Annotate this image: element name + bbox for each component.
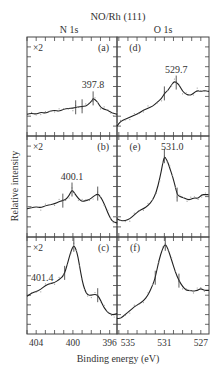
spectrum-curve-a xyxy=(27,99,117,114)
panel-label-b: (b) xyxy=(97,141,109,153)
x-tick-label: 400 xyxy=(66,338,81,348)
data-point xyxy=(77,107,78,108)
data-point xyxy=(54,284,55,285)
data-point xyxy=(167,90,168,91)
data-point xyxy=(129,313,130,314)
data-point xyxy=(200,90,201,91)
data-point xyxy=(113,222,114,223)
panel-label-f: (f) xyxy=(130,242,140,254)
data-point xyxy=(147,203,148,204)
peak-label-e: 531.0 xyxy=(161,141,184,152)
data-point xyxy=(194,196,195,197)
data-point xyxy=(175,187,176,188)
data-point xyxy=(79,265,80,266)
data-point xyxy=(36,114,37,115)
data-point xyxy=(152,199,153,200)
spectrum-curve-f xyxy=(117,245,209,319)
peak-label-a: 397.8 xyxy=(82,79,105,90)
data-point xyxy=(36,292,37,293)
data-point xyxy=(182,288,183,289)
data-point xyxy=(120,219,121,220)
multiplier-label: ×2 xyxy=(33,142,43,152)
xps-chart: NO/Rh (111) N 1s O 1s Relative intensity… xyxy=(0,0,223,373)
data-point xyxy=(104,305,105,306)
data-point xyxy=(204,291,205,292)
data-point xyxy=(85,199,86,200)
data-point xyxy=(31,292,32,293)
data-point xyxy=(85,103,86,104)
data-point xyxy=(74,193,75,194)
data-point xyxy=(208,292,209,293)
data-point xyxy=(63,274,64,275)
data-point xyxy=(143,210,144,211)
data-point xyxy=(54,205,55,206)
panel-label-c: (c) xyxy=(98,242,109,254)
x-tick-label: 531 xyxy=(157,338,172,348)
data-point xyxy=(178,85,179,86)
data-point xyxy=(54,111,55,112)
data-point xyxy=(125,119,126,120)
spectrum-curve-e xyxy=(117,158,209,221)
data-point xyxy=(152,284,153,285)
data-point xyxy=(45,204,46,205)
data-point xyxy=(84,289,85,290)
data-point xyxy=(107,210,108,211)
data-point xyxy=(183,197,184,198)
data-point xyxy=(169,165,170,166)
panel-label-d: (d) xyxy=(129,42,141,54)
data-point xyxy=(134,113,135,114)
data-point xyxy=(114,316,115,317)
data-point xyxy=(110,217,111,218)
data-point xyxy=(104,106,105,107)
data-point xyxy=(125,221,126,222)
data-point xyxy=(107,311,108,312)
data-point xyxy=(31,206,32,207)
data-point xyxy=(93,198,94,199)
data-point xyxy=(201,196,202,197)
x-tick-label: 527 xyxy=(194,338,209,348)
data-point xyxy=(189,290,190,291)
data-point xyxy=(182,93,183,94)
data-point xyxy=(143,302,144,303)
y-axis-label: Relative intensity xyxy=(9,151,20,221)
data-point xyxy=(97,102,98,103)
data-point xyxy=(40,291,41,292)
data-point xyxy=(45,283,46,284)
data-point xyxy=(186,288,187,289)
x-tick-label: 404 xyxy=(29,338,44,348)
data-point xyxy=(116,112,117,113)
data-point xyxy=(147,292,148,293)
column-title-n1s: N 1s xyxy=(60,24,79,35)
data-point xyxy=(147,105,148,106)
data-point xyxy=(198,199,199,200)
data-point xyxy=(116,216,117,217)
data-point xyxy=(107,109,108,110)
data-point xyxy=(159,180,160,181)
x-axis-label: Binding energy (eV) xyxy=(77,353,160,365)
data-point xyxy=(116,123,117,124)
data-point xyxy=(167,161,168,162)
data-point xyxy=(82,278,83,279)
data-point xyxy=(45,111,46,112)
data-point xyxy=(172,175,173,176)
peak-label-b: 400.1 xyxy=(61,171,84,182)
data-point xyxy=(162,162,163,163)
data-point xyxy=(110,112,111,113)
data-point xyxy=(26,111,27,112)
data-point xyxy=(78,200,79,201)
data-point xyxy=(138,303,139,304)
multiplier-label: ×2 xyxy=(33,243,43,253)
data-point xyxy=(161,100,162,101)
data-point xyxy=(116,225,117,226)
data-point xyxy=(68,109,69,110)
panel-label-e: (e) xyxy=(129,141,140,153)
data-point xyxy=(208,194,209,195)
data-point xyxy=(40,210,41,211)
data-point xyxy=(72,110,73,111)
data-point xyxy=(69,197,70,198)
data-point xyxy=(94,97,95,98)
data-point xyxy=(179,194,180,195)
data-point xyxy=(208,93,209,94)
data-point xyxy=(197,88,198,89)
data-point xyxy=(59,277,60,278)
